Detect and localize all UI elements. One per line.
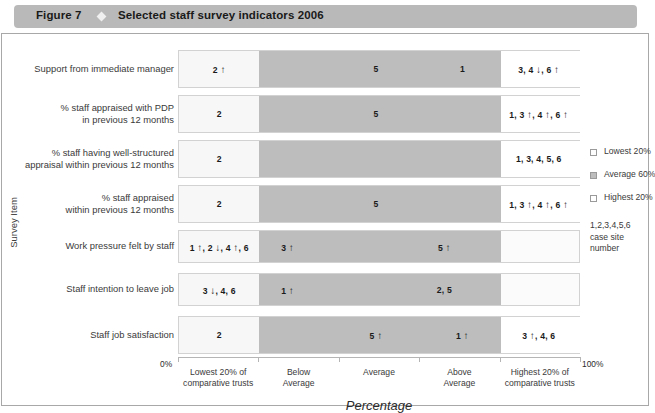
row-label-line: in previous 12 months xyxy=(14,114,174,127)
row-label-line: Staff intention to leave job xyxy=(14,283,174,296)
x-axis-category-label: Average xyxy=(339,367,419,378)
x-axis-category-line: Average xyxy=(339,367,419,378)
legend-item: Highest 20% xyxy=(590,192,652,214)
case-site-marker: 1, 3 ↑, 4 ↑, 6 ↑ xyxy=(509,199,568,210)
x-axis-tick xyxy=(339,357,340,362)
x-axis-category-line: Below xyxy=(258,367,338,378)
x-axis-category-line: Lowest 20% of xyxy=(178,367,258,378)
x-axis-category-label: AboveAverage xyxy=(419,367,499,389)
case-site-marker: 3 ↑, 4, 6 xyxy=(522,330,555,341)
case-site-marker: 2 xyxy=(217,109,222,119)
row-label: Support from immediate manager xyxy=(14,63,174,76)
plot-area: 2 ↑513, 4 ↓, 6 ↑251, 3 ↑, 4 ↑, 6 ↑21, 3,… xyxy=(178,45,580,357)
diamond-bullet-icon xyxy=(97,12,107,22)
row-label-line: within previous 12 months xyxy=(14,204,174,217)
chart-row[interactable]: 25 ↑1 ↑3 ↑, 4, 6 xyxy=(178,316,580,354)
highest-swatch xyxy=(590,195,597,202)
case-site-marker: 3, 4 ↓, 6 ↑ xyxy=(518,64,559,75)
case-site-marker: 3 ↑ xyxy=(281,241,294,252)
legend-note-line-2: case site number xyxy=(590,232,652,255)
row-label: % staff having well-structuredappraisal … xyxy=(14,147,174,172)
x-axis-category-line: Average xyxy=(258,378,338,389)
segment-average xyxy=(259,141,500,177)
legend-note-line-1: 1,2,3,4,5,6 xyxy=(590,220,652,232)
case-site-marker: 2 xyxy=(217,199,222,209)
case-site-marker: 5 xyxy=(373,199,378,209)
legend-label: Average 60% xyxy=(604,169,655,179)
case-site-marker: 1, 3, 4, 5, 6 xyxy=(516,154,562,164)
row-label-line: appraisal within previous 12 months xyxy=(14,159,174,172)
case-site-marker: 2 ↑ xyxy=(213,64,226,75)
row-label-line: Work pressure felt by staff xyxy=(14,240,174,253)
case-site-marker: 5 ↑ xyxy=(438,241,451,252)
segment-average xyxy=(259,96,500,132)
average-swatch xyxy=(590,172,597,179)
case-site-marker: 1 ↑, 2 ↓, 4 ↑, 6 xyxy=(190,241,249,252)
x-axis-category-label: BelowAverage xyxy=(258,367,338,389)
row-label: Staff job satisfaction xyxy=(14,329,174,342)
segment-average xyxy=(259,231,500,262)
row-label: Work pressure felt by staff xyxy=(14,240,174,253)
x-axis-category-line: comparative trusts xyxy=(500,378,580,389)
row-label-line: Staff job satisfaction xyxy=(14,329,174,342)
case-site-marker: 1 xyxy=(460,64,465,74)
figure-title: Selected staff survey indicators 2006 xyxy=(118,9,324,21)
legend-label: Highest 20% xyxy=(604,192,653,202)
case-site-marker: 3 ↓, 4, 6 xyxy=(203,284,236,295)
x-axis-title: Percentage xyxy=(178,398,580,413)
case-site-marker: 2 xyxy=(217,330,222,340)
x-axis-category-label: Highest 20% ofcomparative trusts xyxy=(500,367,580,389)
case-site-marker: 1, 3 ↑, 4 ↑, 6 ↑ xyxy=(509,109,568,120)
x-axis-end-label: 100% xyxy=(582,359,603,369)
case-site-marker: 2 xyxy=(217,154,222,164)
x-axis-category-line: comparative trusts xyxy=(178,378,258,389)
x-axis-category-line: Above xyxy=(419,367,499,378)
x-axis-category-label: Lowest 20% ofcomparative trusts xyxy=(178,367,258,389)
row-label-line: Support from immediate manager xyxy=(14,63,174,76)
chart-row[interactable]: 1 ↑, 2 ↓, 4 ↑, 63 ↑5 ↑ xyxy=(178,230,580,263)
chart-row[interactable]: 251, 3 ↑, 4 ↑, 6 ↑ xyxy=(178,95,580,133)
x-axis-tick xyxy=(178,357,179,362)
segment-average xyxy=(259,274,500,305)
x-axis-start-label: 0% xyxy=(160,359,172,369)
case-site-marker: 5 ↑ xyxy=(370,330,383,341)
x-axis-tick xyxy=(258,357,259,362)
lowest-swatch xyxy=(590,149,597,156)
row-label-line: % staff appraised with PDP xyxy=(14,102,174,115)
case-site-marker: 5 xyxy=(373,109,378,119)
segment-average xyxy=(259,186,500,222)
case-site-marker: 5 xyxy=(373,64,378,74)
x-axis-tick xyxy=(419,357,420,362)
chart-row[interactable]: 2 ↑513, 4 ↓, 6 ↑ xyxy=(178,50,580,88)
x-axis-line xyxy=(178,357,580,358)
figure-number-label: Figure 7 xyxy=(36,9,82,21)
legend-label: Lowest 20% xyxy=(604,146,651,156)
legend-item: Average 60% xyxy=(590,169,652,191)
chart-row[interactable]: 21, 3, 4, 5, 6 xyxy=(178,140,580,178)
case-site-marker: 1 ↑ xyxy=(281,284,294,295)
row-label-line: % staff having well-structured xyxy=(14,147,174,160)
row-label-line: % staff appraised xyxy=(14,192,174,205)
x-axis-category-line: Highest 20% of xyxy=(500,367,580,378)
x-axis-category-line: Average xyxy=(419,378,499,389)
row-label-column: Support from immediate manager% staff ap… xyxy=(14,34,174,407)
case-site-marker: 1 ↑ xyxy=(456,330,469,341)
row-label: % staff appraised with PDPin previous 12… xyxy=(14,102,174,127)
chart-row[interactable]: 251, 3 ↑, 4 ↑, 6 ↑ xyxy=(178,185,580,223)
legend-item: Lowest 20% xyxy=(590,146,652,168)
legend-note: 1,2,3,4,5,6 case site number xyxy=(590,220,652,255)
case-site-marker: 2, 5 xyxy=(437,285,452,295)
figure-frame: Survey Item Support from immediate manag… xyxy=(1,33,649,406)
chart-row[interactable]: 3 ↓, 4, 61 ↑2, 5 xyxy=(178,273,580,306)
x-axis-tick xyxy=(500,357,501,362)
row-label: Staff intention to leave job xyxy=(14,283,174,296)
row-label: % staff appraisedwithin previous 12 mont… xyxy=(14,192,174,217)
figure-title-bar: Figure 7 Selected staff survey indicator… xyxy=(14,5,637,28)
x-axis-tick xyxy=(580,357,581,362)
